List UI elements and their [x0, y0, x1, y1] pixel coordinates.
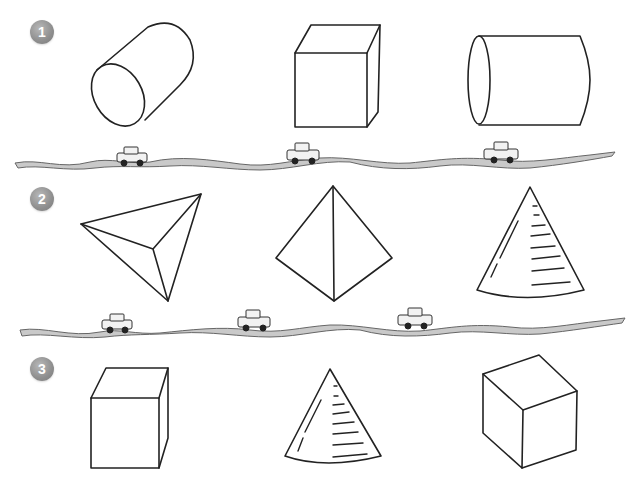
cylinder-horizontal-shape[interactable] [468, 36, 590, 125]
road-divider-2 [20, 308, 625, 338]
toy-car-icon [398, 308, 432, 329]
cone-shape[interactable] [477, 187, 584, 298]
triangular-pyramid-side-view-shape[interactable] [276, 186, 392, 301]
road-divider-1 [15, 142, 615, 170]
triangular-pyramid-top-view-shape[interactable] [81, 194, 201, 301]
cube-isometric-shape[interactable] [483, 355, 577, 468]
cuboid-shape[interactable] [91, 368, 168, 468]
worksheet-canvas [0, 0, 642, 485]
toy-car-icon [102, 314, 132, 333]
toy-car-icon [238, 310, 270, 331]
cuboid-shape[interactable] [295, 25, 380, 127]
cone-shape[interactable] [285, 369, 381, 463]
cylinder-tilted-shape[interactable] [81, 23, 194, 135]
